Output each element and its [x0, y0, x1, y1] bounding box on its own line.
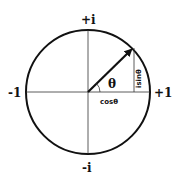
label-minus-one: -1 — [8, 86, 21, 100]
label-isin-theta: isinθ — [135, 69, 143, 88]
angle-arc — [97, 84, 101, 93]
label-minus-i: -i — [82, 161, 92, 175]
label-theta: θ — [108, 77, 116, 91]
unit-circle-diagram: +i -i -1 +1 θ cosθ isinθ — [0, 0, 177, 179]
label-cos-theta: cosθ — [100, 98, 118, 106]
diagram-canvas: +i -i -1 +1 θ cosθ isinθ — [0, 0, 177, 179]
label-plus-one: +1 — [154, 86, 172, 100]
label-plus-i: +i — [81, 13, 96, 27]
